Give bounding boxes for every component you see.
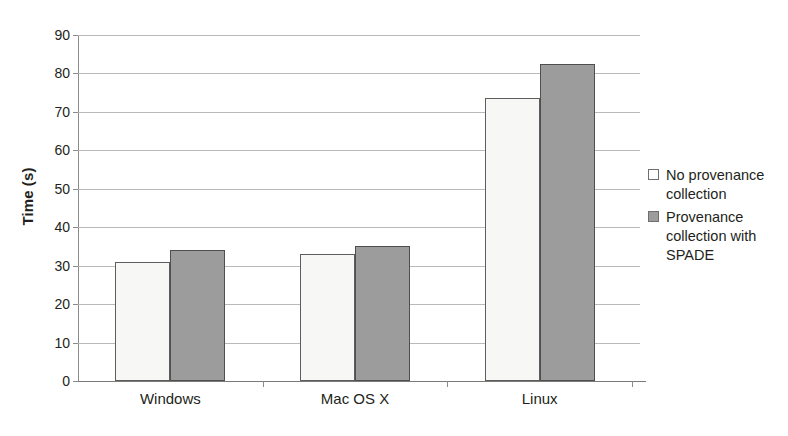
- plot-area: [78, 35, 632, 381]
- y-tick-label-90: 90: [30, 28, 70, 42]
- y-tick-label-0: 0: [30, 374, 70, 388]
- x-tick-3: [632, 381, 633, 387]
- y-tick-label-80: 80: [30, 66, 70, 80]
- bar-mac-os-x-series-1: [300, 254, 355, 381]
- bar-windows-series-2: [170, 250, 225, 381]
- gridline-90: [78, 35, 640, 36]
- legend-label-2: Provenance collection with SPADE: [666, 208, 780, 265]
- y-tick-label-40: 40: [30, 220, 70, 234]
- y-tick-label-30: 30: [30, 259, 70, 273]
- y-axis-line: [78, 35, 79, 381]
- bar-linux-series-1: [485, 98, 540, 381]
- legend-entry-1: No provenance collection: [648, 166, 780, 204]
- bar-linux-series-2: [540, 64, 595, 381]
- bar-windows-series-1: [115, 262, 170, 381]
- legend-swatch-icon-1: [648, 169, 659, 180]
- x-tick-2: [447, 381, 448, 387]
- y-tick-label-60: 60: [30, 143, 70, 157]
- x-label-windows: Windows: [78, 390, 263, 407]
- chart-legend: No provenance collectionProvenance colle…: [648, 166, 780, 269]
- legend-label-1: No provenance collection: [666, 166, 780, 204]
- bar-chart-figure: Time (s) 0102030405060708090 WindowsMac …: [0, 0, 788, 436]
- y-tick-label-50: 50: [30, 182, 70, 196]
- legend-entry-2: Provenance collection with SPADE: [648, 208, 780, 265]
- y-tick-label-20: 20: [30, 297, 70, 311]
- x-tick-1: [263, 381, 264, 387]
- x-label-linux: Linux: [447, 390, 632, 407]
- x-label-mac-os-x: Mac OS X: [263, 390, 448, 407]
- y-tick-label-10: 10: [30, 336, 70, 350]
- y-tick-label-70: 70: [30, 105, 70, 119]
- bar-mac-os-x-series-2: [355, 246, 410, 381]
- gridline-0: [78, 381, 646, 382]
- legend-swatch-icon-2: [648, 211, 659, 222]
